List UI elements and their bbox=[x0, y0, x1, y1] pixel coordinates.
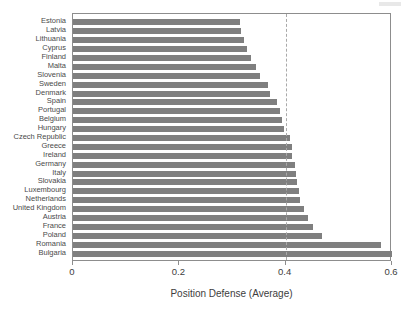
category-label: Italy bbox=[52, 169, 66, 177]
bar bbox=[73, 162, 295, 168]
x-tick-mark bbox=[391, 261, 392, 265]
bar-row bbox=[73, 37, 392, 43]
bar-row bbox=[73, 73, 392, 79]
bar-row bbox=[73, 224, 392, 230]
x-tick-mark bbox=[72, 261, 73, 265]
x-tick-mark bbox=[178, 261, 179, 265]
bar-row bbox=[73, 215, 392, 221]
category-label: France bbox=[43, 222, 66, 230]
category-label: Spain bbox=[47, 97, 66, 105]
bar-row bbox=[73, 144, 392, 150]
category-label: Luxembourg bbox=[24, 186, 66, 194]
bar bbox=[73, 171, 296, 177]
bar bbox=[73, 108, 280, 114]
category-label: Lithuania bbox=[36, 35, 66, 43]
bar-row bbox=[73, 171, 392, 177]
x-axis-title: Position Defense (Average) bbox=[72, 288, 391, 300]
bar bbox=[73, 126, 284, 132]
bar bbox=[73, 215, 308, 221]
category-label: Cyprus bbox=[42, 44, 66, 52]
bar bbox=[73, 28, 241, 34]
bar bbox=[73, 144, 292, 150]
category-label: Ireland bbox=[43, 151, 66, 159]
bar bbox=[73, 55, 251, 61]
bar bbox=[73, 46, 247, 52]
bar-row bbox=[73, 135, 392, 141]
category-label: Czech Republic bbox=[13, 133, 66, 141]
category-axis-labels: EstoniaLatviaLithuaniaCyprusFinlandMalta… bbox=[0, 13, 69, 261]
bar-row bbox=[73, 64, 392, 70]
bar bbox=[73, 117, 282, 123]
category-label: Belgium bbox=[39, 115, 66, 123]
category-label: Netherlands bbox=[26, 195, 66, 203]
category-label: Latvia bbox=[46, 26, 66, 34]
bar-row bbox=[73, 19, 392, 25]
bar bbox=[73, 37, 244, 43]
category-label: United Kingdom bbox=[13, 204, 66, 212]
bar bbox=[73, 135, 290, 141]
bar bbox=[73, 153, 292, 159]
bar-row bbox=[73, 162, 392, 168]
bar bbox=[73, 73, 260, 79]
category-label: Estonia bbox=[41, 17, 66, 25]
bar-row bbox=[73, 28, 392, 34]
bar bbox=[73, 206, 304, 212]
bar bbox=[73, 64, 256, 70]
category-label: Slovenia bbox=[37, 71, 66, 79]
bar bbox=[73, 197, 300, 203]
value-axis-ticks: 00.20.40.6 bbox=[72, 261, 391, 267]
bar bbox=[73, 251, 392, 257]
bar-row bbox=[73, 251, 392, 257]
x-tick-label: 0 bbox=[69, 266, 74, 277]
bar-row bbox=[73, 108, 392, 114]
category-label: Malta bbox=[48, 62, 66, 70]
bar-chart-figure: EstoniaLatviaLithuaniaCyprusFinlandMalta… bbox=[0, 0, 407, 312]
bar-row bbox=[73, 117, 392, 123]
category-label: Romania bbox=[36, 240, 66, 248]
bar-row bbox=[73, 91, 392, 97]
bar-row bbox=[73, 188, 392, 194]
bar bbox=[73, 224, 313, 230]
x-tick-label: 0.2 bbox=[172, 266, 185, 277]
bar-row bbox=[73, 242, 392, 248]
plot-area bbox=[72, 13, 391, 261]
category-label: Denmark bbox=[36, 89, 66, 97]
category-label: Bulgaria bbox=[38, 249, 66, 257]
category-label: Hungary bbox=[38, 124, 66, 132]
bar bbox=[73, 242, 381, 248]
bar-row bbox=[73, 82, 392, 88]
bar bbox=[73, 179, 297, 185]
bar-row bbox=[73, 197, 392, 203]
x-tick-label: 0.6 bbox=[384, 266, 397, 277]
bar-row bbox=[73, 46, 392, 52]
bar bbox=[73, 19, 240, 25]
category-label: Portugal bbox=[38, 106, 66, 114]
bar-row bbox=[73, 126, 392, 132]
bar-row bbox=[73, 99, 392, 105]
category-label: Greece bbox=[41, 142, 66, 150]
bar-row bbox=[73, 179, 392, 185]
category-label: Poland bbox=[43, 231, 66, 239]
category-label: Slovakia bbox=[38, 177, 66, 185]
bar-row bbox=[73, 55, 392, 61]
category-label: Austria bbox=[43, 213, 66, 221]
bar-row bbox=[73, 206, 392, 212]
bar bbox=[73, 91, 270, 97]
category-label: Sweden bbox=[39, 80, 66, 88]
bar bbox=[73, 99, 277, 105]
category-label: Finland bbox=[41, 53, 66, 61]
bar-row bbox=[73, 233, 392, 239]
bar bbox=[73, 188, 299, 194]
bar bbox=[73, 82, 268, 88]
reference-line-0-4 bbox=[286, 14, 287, 260]
bars-layer bbox=[73, 14, 390, 260]
scan-artifact bbox=[379, 2, 401, 6]
x-tick-label: 0.4 bbox=[278, 266, 291, 277]
category-label: Germany bbox=[35, 160, 66, 168]
bar-row bbox=[73, 153, 392, 159]
x-tick-mark bbox=[285, 261, 286, 265]
